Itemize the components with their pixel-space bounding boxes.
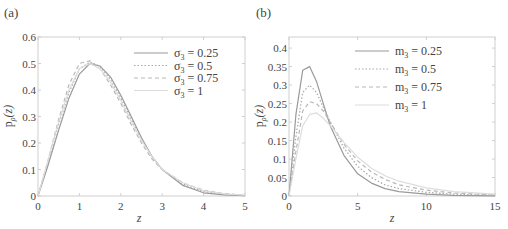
- y-tick-label: 0: [282, 190, 288, 202]
- y-tick-label: 0.4: [273, 42, 287, 54]
- x-tick-label: 15: [490, 200, 502, 212]
- ylabel-a: pρ(z): [1, 105, 17, 128]
- legend-entry: m3 = 0.25: [395, 44, 442, 60]
- panel-label-a: (a): [4, 5, 18, 20]
- x-tick-label: 3: [159, 200, 165, 212]
- axes-frame-a: [38, 37, 245, 196]
- plot-a: 01234500.10.20.30.40.50.6 σ3 = 0.25σ3 = …: [1, 31, 248, 225]
- x-tick-label: 5: [355, 200, 361, 212]
- y-tick-label: 0.4: [22, 84, 36, 96]
- x-tick-label: 10: [421, 200, 433, 212]
- y-tick-label: 0.25: [268, 98, 288, 110]
- legend-a: σ3 = 0.25σ3 = 0.5σ3 = 0.75σ3 = 1: [134, 46, 218, 100]
- y-tick-label: 0.3: [273, 79, 287, 91]
- legend-entry: σ3 = 1: [174, 84, 203, 100]
- y-tick-label: 0.15: [268, 135, 288, 147]
- y-tick-label: 0.1: [22, 164, 36, 176]
- y-tick-label: 0.35: [268, 61, 288, 73]
- xlabel-b: z: [389, 211, 395, 225]
- legend-b: m3 = 0.25m3 = 0.5m3 = 0.75m3 = 1: [355, 44, 442, 114]
- y-tick-label: 0.5: [22, 58, 36, 70]
- x-tick-label: 2: [118, 200, 124, 212]
- series-line: [289, 67, 495, 196]
- series-line: [289, 85, 495, 196]
- axes-frame-b: [289, 37, 495, 196]
- y-tick-label: 0: [31, 190, 37, 202]
- x-tick-label: 0: [35, 200, 41, 212]
- x-tick-label: 1: [77, 200, 83, 212]
- y-tick-label: 0.6: [22, 31, 36, 43]
- figure: (a) (b) 01234500.10.20.30.40.50.6 σ3 = 0…: [0, 0, 508, 229]
- legend-entry: m3 = 0.75: [395, 80, 442, 96]
- ylabel-b: pρ(z): [252, 105, 268, 128]
- panel-label-b: (b): [256, 5, 271, 20]
- legend-entry: m3 = 0.5: [395, 62, 436, 78]
- x-tick-label: 5: [242, 200, 248, 212]
- y-tick-label: 0.2: [273, 116, 287, 128]
- x-tick-label: 0: [286, 200, 292, 212]
- y-tick-label: 0.1: [273, 153, 287, 165]
- xlabel-a: z: [136, 211, 142, 225]
- legend-entry: m3 = 1: [395, 98, 427, 114]
- ticks-b: 05101500.050.10.150.20.250.30.350.4: [268, 37, 501, 212]
- curves-b: [289, 67, 495, 196]
- y-tick-label: 0.3: [22, 111, 36, 123]
- plot-b: 05101500.050.10.150.20.250.30.350.4 m3 =…: [252, 37, 501, 225]
- y-tick-label: 0.2: [22, 137, 36, 149]
- series-line: [289, 113, 495, 196]
- x-tick-label: 4: [201, 200, 207, 212]
- y-tick-label: 0.05: [268, 172, 288, 184]
